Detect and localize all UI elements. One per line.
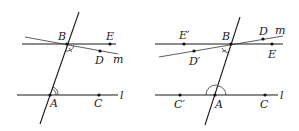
point-D-prime — [192, 49, 195, 52]
transversal-line — [40, 12, 79, 124]
angle-mark-A-inner — [52, 89, 56, 95]
angle-tick-B — [69, 48, 72, 52]
label-E-prime: E′ — [178, 29, 190, 42]
label-A: A — [49, 97, 58, 110]
figure-left: B E D m A C l — [17, 12, 124, 124]
label-D: D — [258, 25, 268, 38]
label-D-prime: D′ — [188, 55, 201, 68]
label-C-prime: C′ — [174, 98, 185, 111]
label-E: E — [267, 48, 276, 61]
angle-mark-A-right — [218, 86, 226, 95]
figure-right: B E E′ D D′ m A C C′ l — [155, 17, 285, 125]
label-D: D — [94, 54, 104, 67]
point-C-prime — [178, 93, 181, 96]
point-A — [213, 93, 216, 96]
geometry-diagram: B E D m A C l B E E′ D D′ m A C C′ — [0, 0, 299, 131]
label-C: C — [94, 97, 103, 110]
angle-mark-A-outer — [53, 87, 58, 95]
label-m: m — [113, 53, 123, 66]
point-C — [263, 93, 266, 96]
label-A: A — [214, 98, 223, 111]
label-l: l — [120, 89, 124, 102]
label-B: B — [57, 30, 66, 43]
label-l: l — [280, 89, 284, 102]
label-B: B — [221, 30, 230, 43]
point-E-prime — [182, 42, 185, 45]
label-E: E — [105, 30, 114, 43]
label-C: C — [260, 98, 269, 111]
label-m: m — [275, 24, 285, 37]
point-E — [270, 42, 273, 45]
point-D — [98, 49, 101, 52]
